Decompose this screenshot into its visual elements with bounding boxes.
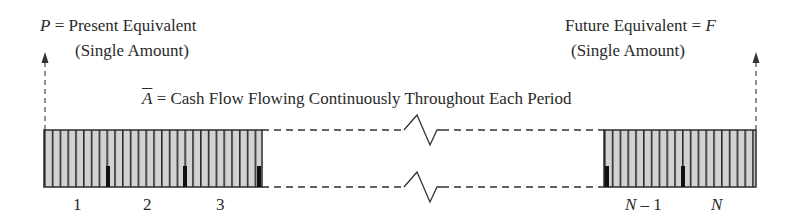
present-arrow [42,52,49,130]
future-arrow [753,52,760,130]
break-zigzag-top [404,115,442,145]
continuous-flow-block-left [44,130,262,187]
period-end-marker [681,166,685,187]
timeline-break [262,115,604,202]
cash-flow-diagram [0,0,800,222]
continuous-flow-block-right [604,130,756,187]
period-end-marker [106,166,110,187]
period-end-marker [183,166,187,187]
period-end-marker [605,166,609,187]
period-end-marker [257,166,261,187]
break-zigzag-bottom [404,172,442,202]
